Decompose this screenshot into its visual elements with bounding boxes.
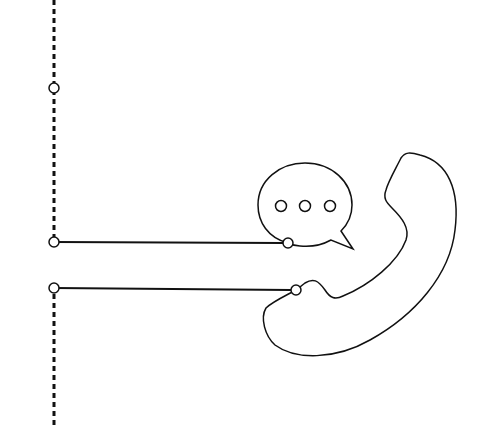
top-node [49,83,59,93]
phone-node [49,283,59,293]
chat-dot-icon [276,201,287,212]
connectors [54,242,291,290]
chat-dot-icon [300,201,311,212]
phone-connector [54,288,291,290]
chat-connector [54,242,283,243]
chat-node [49,237,59,247]
phone-anchor-node [291,285,301,295]
chat-anchor-node [283,238,293,248]
chat-bubble-icon [258,163,353,249]
chat-dot-icon [325,201,336,212]
timeline-diagram [0,0,492,427]
